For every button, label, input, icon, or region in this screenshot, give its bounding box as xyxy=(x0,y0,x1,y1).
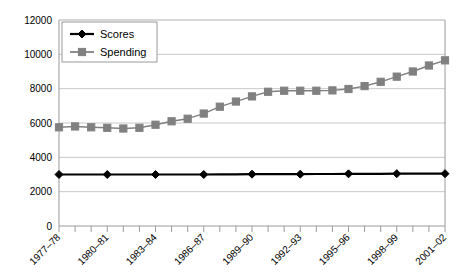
chart-container: 020004000600080001000012000 1977–781980–… xyxy=(0,0,470,278)
data-point-spending xyxy=(71,123,78,130)
y-tick-label: 10000 xyxy=(24,49,52,60)
data-point-spending xyxy=(88,124,95,131)
data-point-spending xyxy=(361,82,368,89)
data-point-spending xyxy=(329,87,336,94)
data-point-spending xyxy=(200,110,207,117)
data-point-spending xyxy=(345,85,352,92)
data-point-spending xyxy=(441,57,448,64)
data-point-spending xyxy=(55,124,62,131)
data-point-spending xyxy=(104,124,111,131)
data-point-spending xyxy=(297,87,304,94)
data-point-spending xyxy=(281,87,288,94)
data-point-spending xyxy=(377,78,384,85)
chart-legend: ScoresSpending xyxy=(62,22,157,62)
y-tick-label: 6000 xyxy=(30,118,53,129)
data-point-spending xyxy=(425,62,432,69)
y-tick-label: 0 xyxy=(46,221,52,232)
data-point-spending xyxy=(313,87,320,94)
data-point-spending xyxy=(248,93,255,100)
y-tick-label: 8000 xyxy=(30,83,53,94)
data-point-spending xyxy=(168,118,175,125)
y-tick-label: 2000 xyxy=(30,186,53,197)
data-point-spending xyxy=(393,73,400,80)
data-point-spending xyxy=(216,103,223,110)
data-point-spending xyxy=(264,88,271,95)
legend-label-scores: Scores xyxy=(100,28,135,40)
legend-marker-spending xyxy=(78,48,85,55)
y-tick-label: 4000 xyxy=(30,152,53,163)
data-point-spending xyxy=(184,115,191,122)
line-chart: 020004000600080001000012000 1977–781980–… xyxy=(0,0,470,278)
data-point-spending xyxy=(152,121,159,128)
y-tick-label: 12000 xyxy=(24,15,52,26)
legend-label-spending: Spending xyxy=(100,46,147,58)
data-point-spending xyxy=(409,68,416,75)
data-point-spending xyxy=(120,125,127,132)
data-point-spending xyxy=(136,124,143,131)
data-point-spending xyxy=(232,98,239,105)
